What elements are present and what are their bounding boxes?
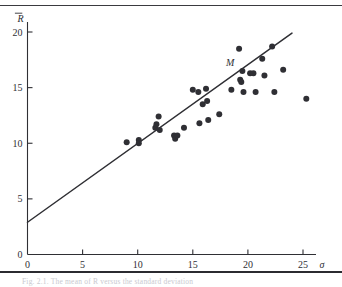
data-point [205, 117, 211, 123]
y-tick-label: 10 [13, 138, 23, 149]
data-point [157, 127, 163, 133]
figure-caption: Fig. 2.1. The mean of R versus the stand… [22, 277, 193, 286]
data-point [204, 98, 210, 104]
y-axis-label: R [16, 13, 23, 24]
data-point [174, 132, 180, 138]
data-point [239, 68, 245, 74]
y-tick-label: 15 [13, 82, 23, 93]
data-point [303, 96, 309, 102]
data-point [280, 67, 286, 73]
data-point [238, 79, 244, 85]
point-annotation-m: M [225, 57, 235, 68]
x-tick-label: 0 [25, 259, 30, 270]
data-point [250, 70, 256, 76]
y-tick-label: 5 [18, 193, 23, 204]
data-point [181, 125, 187, 131]
data-point [196, 120, 202, 126]
x-tick-label: 20 [243, 259, 253, 270]
y-tick-label: 20 [13, 27, 23, 38]
axis-labels-layer: 051015202505101520σR [13, 13, 326, 270]
figure-container: 051015202505101520σR M Fig. 2.1. The mea… [0, 0, 342, 287]
data-point [190, 87, 196, 93]
x-tick-label: 10 [133, 259, 143, 270]
scatter-plot: 051015202505101520σR M [0, 0, 342, 272]
data-point [240, 89, 246, 95]
x-tick-label: 5 [80, 259, 85, 270]
data-point [195, 89, 201, 95]
data-point [253, 89, 259, 95]
data-point [259, 56, 265, 62]
x-tick-label: 15 [188, 259, 198, 270]
data-point [261, 72, 267, 78]
axis-layer [28, 22, 317, 255]
y-tick-label: 0 [18, 249, 23, 260]
data-point [136, 140, 142, 146]
data-points-layer [124, 43, 310, 146]
data-point [153, 121, 159, 127]
data-point [271, 89, 277, 95]
data-point [228, 87, 234, 93]
bottom-rule [0, 271, 342, 273]
data-point [216, 111, 222, 117]
top-rule [0, 5, 342, 6]
data-point [124, 139, 130, 145]
data-point [236, 46, 242, 52]
data-point [203, 86, 209, 92]
data-point [269, 43, 275, 49]
x-axis-label: σ [320, 259, 326, 270]
data-point [156, 114, 162, 120]
x-tick-label: 25 [298, 259, 308, 270]
annotation-layer: M [225, 57, 235, 68]
